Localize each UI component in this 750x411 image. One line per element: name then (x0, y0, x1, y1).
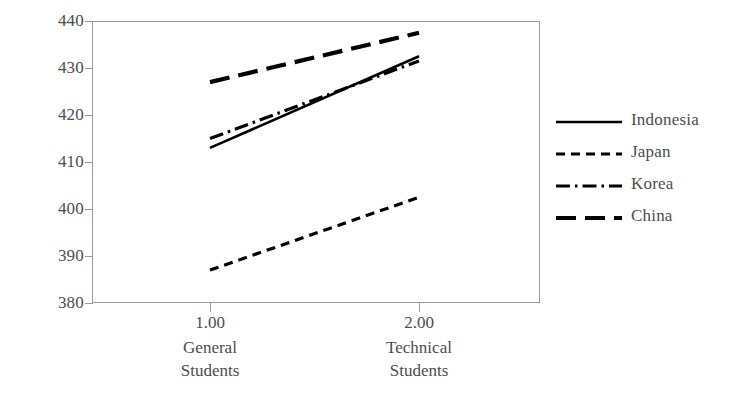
x-tick-label: 1.00 (195, 313, 225, 333)
y-tick-mark (85, 303, 93, 304)
x-group-label: TechnicalStudents (386, 337, 452, 383)
y-tick-label: 410 (58, 152, 84, 172)
legend-label: Korea (631, 174, 674, 194)
x-group-label: GeneralStudents (181, 337, 240, 383)
y-tick-mark (85, 256, 93, 257)
y-tick-label: 380 (58, 293, 84, 313)
x-tick-mark (210, 303, 211, 312)
legend-label: China (631, 206, 673, 226)
x-tick-label: 2.00 (404, 313, 434, 333)
legend-item-japan[interactable]: Japan (556, 136, 746, 168)
chart-legend: IndonesiaJapanKoreaChina (556, 104, 746, 232)
x-group-label-line: General (181, 337, 240, 360)
y-tick-label: 430 (58, 58, 84, 78)
legend-item-korea[interactable]: Korea (556, 168, 746, 200)
legend-swatch-solid (556, 114, 622, 126)
y-tick-label: 390 (58, 246, 84, 266)
legend-swatch-dash-dot (556, 178, 622, 190)
legend-swatch-long-dash (556, 210, 622, 222)
y-tick-mark (85, 21, 93, 22)
x-group-label-line: Students (181, 360, 240, 383)
x-group-label-line: Technical (386, 337, 452, 360)
legend-label: Japan (631, 142, 671, 162)
x-group-label-line: Students (386, 360, 452, 383)
plot-area (92, 21, 540, 303)
x-tick-mark (419, 303, 420, 312)
legend-swatch-dashed (556, 146, 622, 158)
y-tick-mark (85, 209, 93, 210)
y-tick-label: 440 (58, 11, 84, 31)
y-tick-label: 400 (58, 199, 84, 219)
y-tick-mark (85, 68, 93, 69)
legend-item-china[interactable]: China (556, 200, 746, 232)
y-tick-label: 420 (58, 105, 84, 125)
legend-label: Indonesia (631, 110, 699, 130)
y-tick-mark (85, 162, 93, 163)
legend-item-indonesia[interactable]: Indonesia (556, 104, 746, 136)
y-tick-mark (85, 115, 93, 116)
y-axis: 380390400410420430440 (34, 0, 84, 411)
chart-container: 380390400410420430440 1.00GeneralStudent… (0, 0, 750, 411)
